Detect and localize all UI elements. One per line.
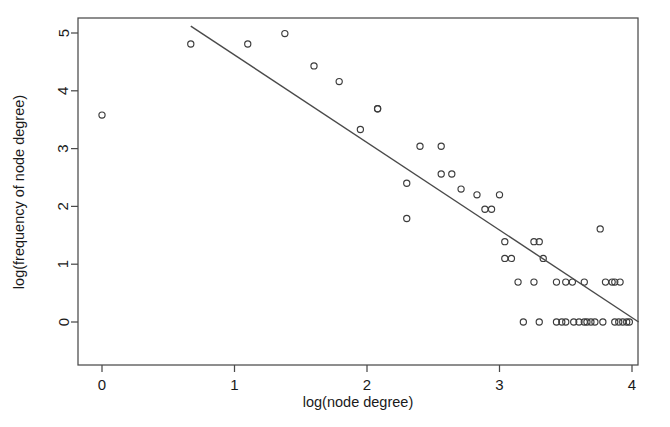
regression-line — [191, 26, 639, 322]
data-point — [597, 226, 603, 232]
x-tick-label: 1 — [230, 376, 238, 393]
plot-frame — [78, 18, 638, 365]
data-point — [311, 63, 317, 69]
data-point — [438, 143, 444, 149]
x-axis-title: log(node degree) — [303, 394, 413, 410]
data-point — [488, 206, 494, 212]
y-axis-ticks: 012345 — [55, 29, 79, 326]
data-point — [482, 206, 488, 212]
x-tick-label: 0 — [98, 376, 106, 393]
data-point — [417, 143, 423, 149]
data-point — [553, 279, 559, 285]
data-point — [508, 255, 514, 261]
data-point — [600, 319, 606, 325]
data-points — [99, 30, 633, 325]
data-point — [502, 239, 508, 245]
data-point — [602, 279, 608, 285]
data-point — [496, 192, 502, 198]
data-point — [245, 41, 251, 47]
y-tick-label: 4 — [55, 87, 72, 95]
data-point — [515, 279, 521, 285]
scatter-plot-figure: 01234 012345 log(node degree) log(freque… — [0, 0, 670, 427]
data-point — [458, 186, 464, 192]
fit-line-segment — [191, 26, 639, 322]
data-point — [336, 78, 342, 84]
x-axis-ticks: 01234 — [98, 365, 636, 393]
y-tick-label: 3 — [55, 144, 72, 152]
data-point — [520, 319, 526, 325]
data-point — [357, 126, 363, 132]
data-point — [536, 319, 542, 325]
y-tick-label: 5 — [55, 29, 72, 37]
x-tick-label: 4 — [628, 376, 636, 393]
data-point — [282, 30, 288, 36]
plot-canvas: 01234 012345 log(node degree) log(freque… — [0, 0, 670, 427]
y-tick-label: 0 — [55, 318, 72, 326]
x-tick-label: 2 — [363, 376, 371, 393]
data-point — [375, 106, 381, 112]
data-point — [474, 192, 480, 198]
y-axis-title: log(frequency of node degree) — [11, 95, 27, 289]
data-point — [449, 171, 455, 177]
data-point — [563, 279, 569, 285]
y-tick-label: 1 — [55, 260, 72, 268]
data-point — [188, 41, 194, 47]
data-point — [438, 171, 444, 177]
x-tick-label: 3 — [495, 376, 503, 393]
data-point — [404, 180, 410, 186]
y-tick-label: 2 — [55, 202, 72, 210]
data-point — [99, 112, 105, 118]
data-point — [531, 279, 537, 285]
data-point — [404, 215, 410, 221]
data-point — [502, 255, 508, 261]
data-point — [592, 319, 598, 325]
data-point — [563, 319, 569, 325]
